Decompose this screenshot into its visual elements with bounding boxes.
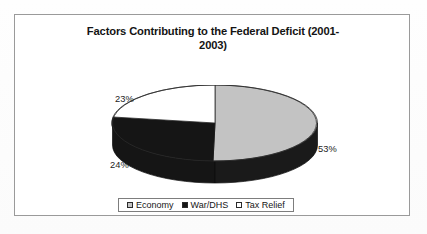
plot-area: 23% 24% 53% Economy War/DHS Tax Relief	[15, 15, 411, 217]
chart-frame: Factors Contributing to the Federal Defi…	[14, 14, 410, 216]
legend-item-economy[interactable]: Economy	[127, 201, 174, 210]
legend-label-war-dhs: War/DHS	[191, 201, 229, 210]
pie-label-economy: 53%	[318, 144, 337, 154]
legend-item-war-dhs[interactable]: War/DHS	[182, 201, 229, 210]
pie-slice-tax-relief	[113, 85, 215, 123]
white-swatch-icon	[236, 202, 242, 208]
black-swatch-icon	[182, 202, 188, 208]
pie-chart-3d	[100, 85, 330, 185]
pie-label-war-dhs: 24%	[110, 160, 129, 170]
chart-legend: Economy War/DHS Tax Relief	[118, 198, 294, 212]
gray-swatch-icon	[127, 202, 133, 208]
legend-label-tax-relief: Tax Relief	[245, 201, 285, 210]
legend-label-economy: Economy	[136, 201, 174, 210]
pie-label-tax-relief: 23%	[115, 94, 134, 104]
legend-item-tax-relief[interactable]: Tax Relief	[236, 201, 285, 210]
